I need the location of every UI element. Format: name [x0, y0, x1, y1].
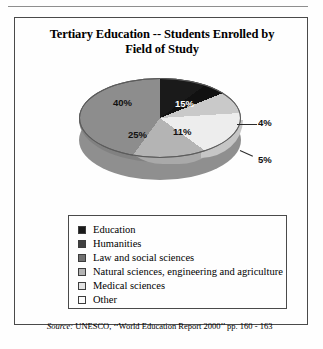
- legend-swatch-icon: [78, 240, 86, 248]
- pie-chart: 15% 40% 25% 11% 4% 5%: [15, 62, 309, 212]
- legend-swatch-icon: [78, 226, 86, 234]
- slice-label-natural: 11%: [173, 127, 192, 137]
- legend-item-humanities: Humanities: [78, 237, 286, 251]
- figure-page: Tertiary Education -- Students Enrolled …: [0, 0, 323, 349]
- legend-item-education: Education: [78, 223, 286, 237]
- slice-label-other: 40%: [113, 98, 132, 108]
- chart-legend: Education Humanities Law and social scie…: [68, 215, 287, 309]
- source-text: UNESCO, ‘‘World Education Report 2000’’ …: [75, 321, 272, 331]
- source-prefix: Source:: [47, 321, 73, 331]
- legend-label: Natural sciences, engineering and agricu…: [93, 265, 283, 279]
- figure-border-box: Tertiary Education -- Students Enrolled …: [14, 17, 308, 325]
- slice-label-education: 15%: [175, 99, 194, 109]
- page-title: Tertiary Education -- Students Enrolled …: [33, 27, 291, 57]
- pie-outline: [79, 78, 241, 158]
- legend-item-medical-sciences: Medical sciences: [78, 279, 286, 293]
- legend-label: Education: [93, 223, 136, 237]
- legend-label: Other: [93, 293, 117, 307]
- legend-label: Humanities: [93, 237, 141, 251]
- legend-label: Law and social sciences: [93, 251, 194, 265]
- legend-swatch-icon: [78, 282, 86, 290]
- pie-graphic: 15% 40% 25% 11%: [65, 70, 245, 190]
- slice-label-medical: 25%: [128, 130, 147, 140]
- title-line-2: Field of Study: [33, 42, 291, 57]
- legend-item-natural-sciences: Natural sciences, engineering and agricu…: [78, 265, 286, 279]
- source-note: Source: UNESCO, ‘‘World Education Report…: [47, 321, 272, 332]
- legend-item-law-and-social-sciences: Law and social sciences: [78, 251, 286, 265]
- callout-leader-humanities: [237, 124, 257, 125]
- slice-label-humanities: 4%: [258, 117, 272, 128]
- legend-label: Medical sciences: [93, 279, 165, 293]
- legend-swatch-icon: [78, 296, 86, 304]
- legend-item-other: Other: [78, 293, 286, 307]
- legend-swatch-icon: [78, 254, 86, 262]
- page-top-rule: [8, 6, 308, 7]
- legend-swatch-icon: [78, 268, 86, 276]
- slice-label-law: 5%: [258, 154, 272, 165]
- title-line-1: Tertiary Education -- Students Enrolled …: [33, 27, 291, 42]
